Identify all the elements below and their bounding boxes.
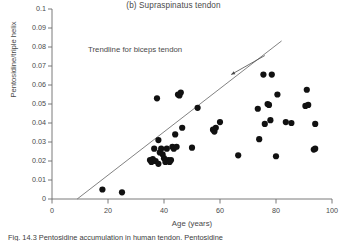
data-point — [155, 137, 161, 143]
data-point — [266, 102, 272, 108]
data-point — [179, 125, 185, 131]
data-point — [174, 144, 180, 150]
data-point — [304, 87, 310, 93]
data-point — [189, 145, 195, 151]
trendline — [77, 41, 281, 199]
scatter-plot-canvas — [0, 0, 347, 241]
figure-caption: Fig. 14.3 Pentosidine accumulation in hu… — [8, 233, 223, 241]
data-point — [155, 161, 161, 167]
data-point — [195, 105, 201, 111]
x-axis-ticks — [52, 199, 332, 204]
figure-container: (b) Supraspinatus tendon Pentosidine/tri… — [0, 0, 347, 241]
data-point — [168, 157, 174, 163]
data-point — [154, 95, 160, 101]
y-axis-ticks — [48, 9, 52, 199]
data-point — [312, 146, 318, 152]
data-point — [158, 146, 164, 152]
data-points — [99, 71, 318, 195]
data-point — [312, 121, 318, 127]
data-point — [164, 146, 170, 152]
data-point — [283, 119, 289, 125]
data-point — [213, 125, 219, 131]
data-point — [273, 153, 279, 159]
data-point — [288, 120, 294, 126]
data-point — [178, 90, 184, 96]
annotation-arrow — [231, 56, 265, 75]
data-point — [260, 71, 266, 77]
data-point — [255, 106, 261, 112]
data-point — [262, 121, 268, 127]
data-point — [119, 189, 125, 195]
data-point — [256, 136, 262, 142]
axes — [52, 9, 332, 199]
data-point — [217, 119, 223, 125]
data-point — [269, 71, 275, 77]
trendline-line — [77, 41, 281, 199]
data-point — [274, 91, 280, 97]
data-point — [235, 152, 241, 158]
data-point — [172, 131, 178, 137]
data-point — [151, 146, 157, 152]
data-point — [305, 102, 311, 108]
data-point — [99, 186, 105, 192]
annotation-arrow-shaft — [231, 56, 265, 75]
data-point — [267, 117, 273, 123]
